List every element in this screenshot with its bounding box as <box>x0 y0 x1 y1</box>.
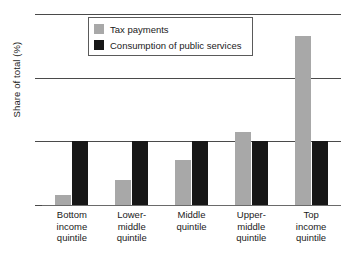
legend-swatch-icon <box>94 24 104 34</box>
y-axis-title: Share of total (%) <box>11 20 22 140</box>
bar <box>72 141 88 205</box>
bar <box>55 195 71 205</box>
y-tick-mark-60 <box>35 14 42 15</box>
legend-swatch-icon <box>94 40 104 50</box>
bar <box>235 132 251 205</box>
gridline-0 <box>42 205 341 206</box>
legend-label: Consumption of public services <box>110 40 241 51</box>
x-axis-category-labels: BottomincomequintileLower-middlequintile… <box>42 209 341 259</box>
bar-group <box>281 14 341 205</box>
bar <box>295 36 311 205</box>
legend-item: Tax payments <box>94 21 247 37</box>
bar <box>115 180 131 205</box>
legend-label: Tax payments <box>110 24 169 35</box>
y-tick-mark-20 <box>35 141 42 142</box>
bar <box>132 141 148 205</box>
x-axis-label: Middlequintile <box>162 209 222 232</box>
bar <box>175 160 191 205</box>
y-tick-mark-40 <box>35 78 42 79</box>
x-axis-label: Upper-middlequintile <box>221 209 281 244</box>
bar <box>252 141 268 205</box>
x-axis-label: Topincomequintile <box>281 209 341 244</box>
x-axis-label: Lower-middlequintile <box>102 209 162 244</box>
bar-chart: Share of total (%) 0204060 Bottomincomeq… <box>0 0 345 260</box>
x-axis-label: Bottomincomequintile <box>42 209 102 244</box>
y-tick-mark-0 <box>35 205 42 206</box>
legend-item: Consumption of public services <box>94 37 247 53</box>
bar <box>192 141 208 205</box>
bar <box>312 141 328 205</box>
chart-legend: Tax paymentsConsumption of public servic… <box>88 17 253 56</box>
